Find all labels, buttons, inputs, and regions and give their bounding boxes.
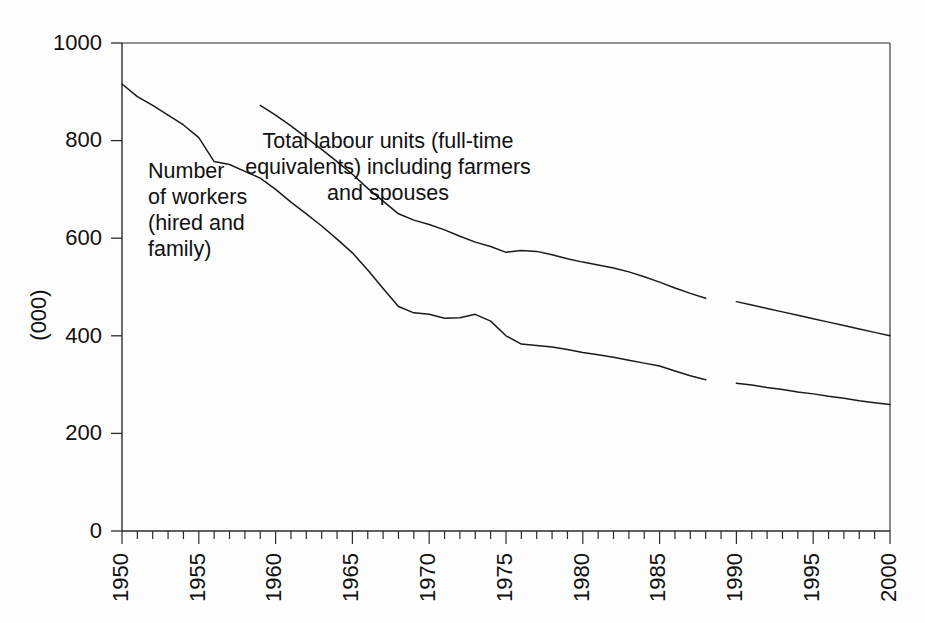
series-projection-0: [736, 302, 890, 336]
y-tick-label: 0: [90, 518, 102, 543]
x-tick-label: 1995: [799, 553, 824, 602]
labour-units-annotation: Total labour units (full-timeequivalents…: [245, 129, 531, 205]
y-tick-label: 400: [65, 323, 102, 348]
x-tick-label: 1985: [645, 553, 670, 602]
x-axis-tick-labels: 1950195519601965197019751980198519901995…: [108, 553, 901, 602]
line-chart: 02004006008001000 1950195519601965197019…: [0, 0, 925, 623]
workers-annotation: Numberof workers(hired andfamily): [148, 159, 247, 261]
x-tick-label: 1950: [108, 553, 133, 602]
y-tick-label: 800: [65, 127, 102, 152]
y-tick-label: 1000: [53, 30, 102, 55]
x-tick-label: 1975: [492, 553, 517, 602]
labour-units-annotation-line-1: equivalents) including farmers: [245, 155, 531, 179]
labour-units-annotation-line-2: and spouses: [327, 181, 449, 205]
y-axis-tick-labels: 02004006008001000: [53, 30, 102, 543]
x-tick-label: 1955: [185, 553, 210, 602]
x-axis-ticks: [122, 531, 890, 544]
x-tick-label: 1980: [569, 553, 594, 602]
x-tick-label: 1990: [722, 553, 747, 602]
workers-annotation-line-2: (hired and: [148, 211, 245, 235]
labour-units-annotation-line-0: Total labour units (full-time: [263, 129, 514, 153]
workers-annotation-line-0: Number: [148, 159, 224, 183]
y-tick-label: 600: [65, 225, 102, 250]
series-projection-1: [736, 383, 890, 404]
chart-page: 02004006008001000 1950195519601965197019…: [0, 0, 925, 623]
workers-annotation-line-3: family): [148, 237, 211, 261]
x-tick-label: 1960: [261, 553, 286, 602]
x-tick-label: 1970: [415, 553, 440, 602]
plot-frame: [122, 43, 890, 531]
x-tick-label: 1965: [338, 553, 363, 602]
x-tick-label: 2000: [876, 553, 901, 602]
y-axis-ticks: [111, 43, 122, 531]
workers-annotation-line-1: of workers: [148, 185, 247, 209]
y-tick-label: 200: [65, 420, 102, 445]
y-axis-title: (000): [26, 289, 51, 340]
